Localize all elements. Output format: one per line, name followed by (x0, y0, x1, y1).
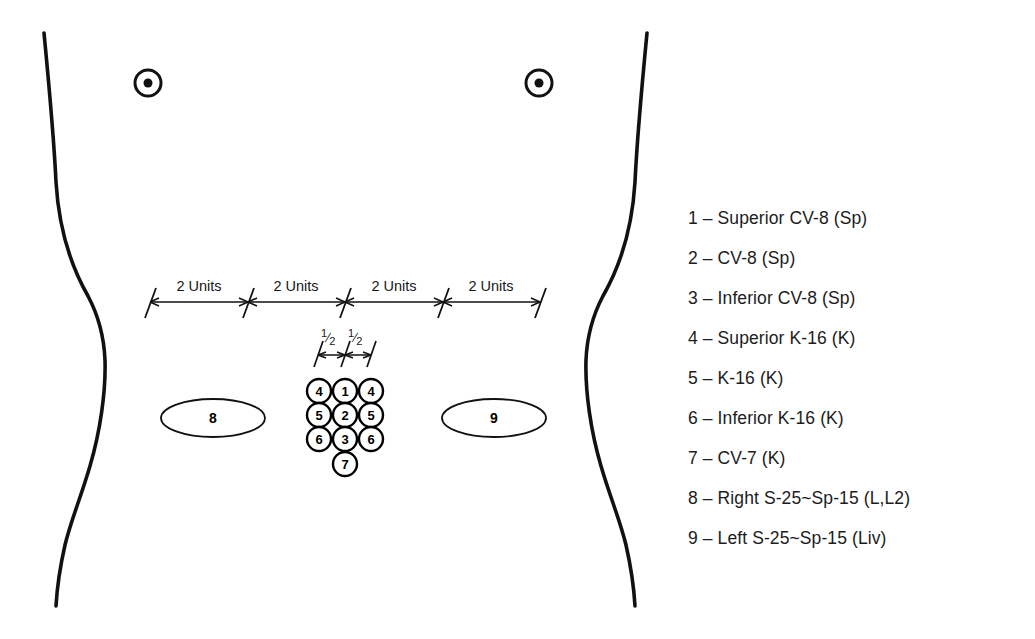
point-label: 5 (367, 408, 374, 423)
point-circle-6-left[interactable]: 6 (307, 427, 331, 451)
point-cluster: 4 1 4 5 2 5 (307, 379, 383, 476)
point-circle-5-right[interactable]: 5 (359, 403, 383, 427)
right-nipple-marker (526, 70, 552, 96)
point-circle-5-left[interactable]: 5 (307, 403, 331, 427)
point-label: 3 (341, 432, 348, 447)
legend-item-7: 7 – CV-7 (K) (688, 438, 1018, 478)
point-label: 4 (315, 384, 323, 399)
legend-item-8: 8 – Right S-25~Sp-15 (L,L2) (688, 478, 1018, 518)
point-label: 6 (367, 432, 374, 447)
left-torso-contour (44, 33, 105, 606)
legend: 1 – Superior CV-8 (Sp) 2 – CV-8 (Sp) 3 –… (688, 198, 1018, 558)
point-label: 5 (315, 408, 322, 423)
point-circle-1[interactable]: 1 (333, 379, 357, 403)
legend-item-5: 5 – K-16 (K) (688, 358, 1018, 398)
legend-item-9: 9 – Left S-25~Sp-15 (Liv) (688, 518, 1018, 558)
ruler-segment-label-4: 2 Units (441, 278, 541, 294)
point-circle-7[interactable]: 7 (333, 452, 357, 476)
point-circle-4-left[interactable]: 4 (307, 379, 331, 403)
fraction-denominator: 2 (329, 335, 335, 347)
legend-item-3: 3 – Inferior CV-8 (Sp) (688, 278, 1018, 318)
point-label: 7 (341, 457, 348, 472)
point-circle-6-right[interactable]: 6 (359, 427, 383, 451)
ruler-segment-label-3: 2 Units (344, 278, 444, 294)
ellipse-marker-9[interactable]: 9 (442, 399, 546, 437)
point-label: 6 (315, 432, 322, 447)
point-label: 1 (341, 384, 348, 399)
fraction-denominator: 2 (356, 335, 362, 347)
right-torso-contour (586, 33, 647, 606)
ellipse-label: 9 (490, 410, 498, 426)
legend-item-4: 4 – Superior K-16 (K) (688, 318, 1018, 358)
half-ruler-fraction-label-2: 1⁄2 (348, 330, 362, 345)
ruler-segment-label-2: 2 Units (246, 278, 346, 294)
ellipse-marker-8[interactable]: 8 (161, 399, 265, 437)
point-circle-4-right[interactable]: 4 (359, 379, 383, 403)
point-circle-3[interactable]: 3 (333, 427, 357, 451)
point-label: 4 (367, 384, 375, 399)
point-label: 2 (341, 408, 348, 423)
legend-item-2: 2 – CV-8 (Sp) (688, 238, 1018, 278)
legend-item-6: 6 – Inferior K-16 (K) (688, 398, 1018, 438)
ellipse-label: 8 (209, 410, 217, 426)
left-nipple-marker (135, 70, 161, 96)
ruler-segment-label-1: 2 Units (149, 278, 249, 294)
point-circle-2[interactable]: 2 (333, 403, 357, 427)
half-ruler-fraction-label-1: 1⁄2 (321, 330, 335, 345)
figure-canvas: 4 1 4 5 2 5 (0, 0, 1035, 639)
legend-item-1: 1 – Superior CV-8 (Sp) (688, 198, 1018, 238)
